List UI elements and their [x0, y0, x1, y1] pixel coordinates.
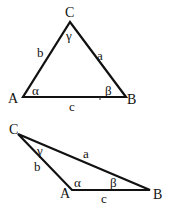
- vertex-label-a: A: [60, 186, 71, 201]
- angle-label-alpha: α: [74, 175, 81, 190]
- side-label-b: b: [34, 159, 41, 174]
- angle-label-gamma: γ: [65, 28, 72, 43]
- triangles-diagram: C A B γ α β b a c C A B γ α β b a c: [0, 0, 188, 218]
- vertex-label-b: B: [153, 187, 162, 202]
- side-label-a: a: [97, 48, 103, 63]
- vertex-label-c: C: [65, 5, 74, 20]
- obtuse-triangle: C A B γ α β b a c: [9, 122, 162, 206]
- angle-label-beta: β: [110, 175, 117, 190]
- vertex-label-c: C: [9, 122, 18, 137]
- angle-label-beta: β: [105, 83, 112, 98]
- vertex-label-a: A: [8, 91, 19, 106]
- angle-label-gamma: γ: [36, 143, 43, 158]
- side-label-c: c: [101, 191, 107, 206]
- side-label-b: b: [37, 45, 44, 60]
- angle-label-alpha: α: [32, 83, 39, 98]
- side-label-c: c: [69, 99, 75, 114]
- acute-triangle: C A B γ α β b a c: [8, 5, 136, 114]
- side-label-a: a: [83, 146, 89, 161]
- vertex-label-b: B: [127, 92, 136, 107]
